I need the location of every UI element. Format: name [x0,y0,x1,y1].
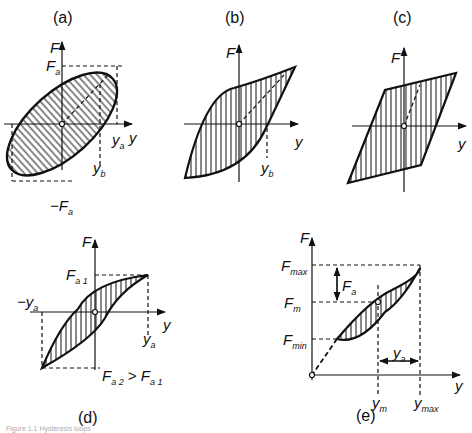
caption-d: (d) [78,410,98,426]
e-label-Fmin: Fmin [283,332,307,351]
d-axis-y: y [163,317,171,332]
caption-a: (a) [53,10,73,26]
d-label-ya: ya [143,331,156,350]
d-axis-F: F [82,234,91,249]
a-label-Fa: Fa [46,58,60,77]
figure-footer: Figure 1.1 Hysteresis loops [6,425,91,432]
e-label-ya: ya [393,345,406,364]
a-label-negFa: −Fa [50,198,73,217]
caption-b: (b) [225,10,245,26]
d-label-negya: −ya [17,294,38,313]
caption-c: (c) [393,10,412,26]
c-axis-y: y [458,136,466,151]
panel-b-loop [184,45,298,182]
e-label-Fmax: Fmax [281,258,307,277]
a-label-ya: ya [112,132,125,151]
e-label-ym: ym [372,395,387,414]
a-axis-F: F [50,40,59,55]
panel-e-loop [310,238,461,395]
e-label-Fm: Fm [284,295,301,314]
e-axis-y: y [455,378,463,393]
e-label-Fa: Fa [342,278,356,297]
d-label-Fa1: Fa 1 [66,267,88,286]
panel-d-loop [30,240,165,370]
e-label-ymax: ymax [414,395,439,414]
a-label-yb: yb [93,160,106,179]
c-axis-F: F [391,50,400,65]
panel-a-loop [0,42,134,193]
e-axis-F: F [300,230,309,245]
panel-c-loop [348,48,466,192]
a-axis-y: y [129,130,137,145]
d-label-condition: Fa 2 > Fa 1 [102,368,162,387]
b-axis-y: y [295,134,303,149]
b-label-yb: yb [261,160,274,179]
b-axis-F: F [226,45,235,60]
